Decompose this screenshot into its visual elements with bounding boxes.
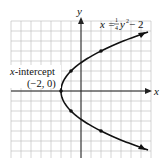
svg-text:x-intercept: x-intercept (9, 66, 55, 77)
data-point (99, 129, 103, 133)
svg-text:− 2: − 2 (129, 18, 143, 30)
x-axis-label: x (153, 85, 159, 97)
data-point (69, 69, 73, 73)
y-axis-label: y (76, 5, 82, 17)
data-point (99, 49, 103, 53)
svg-text:1: 1 (115, 17, 118, 23)
y-axis-arrow-icon (78, 17, 84, 24)
svg-text:x =: x = (99, 18, 115, 30)
parabola-graph: y x x = 1 4 y 2 − 2 x-intercept (−2, 0) (0, 0, 163, 167)
svg-text:y: y (119, 18, 125, 30)
data-point (59, 89, 63, 93)
x-intercept-label: x-intercept (−2, 0) (9, 65, 61, 90)
svg-text:(−2, 0): (−2, 0) (27, 78, 56, 90)
equation-label: x = 1 4 y 2 − 2 (99, 17, 143, 31)
svg-text:4: 4 (115, 25, 118, 31)
data-point (69, 109, 73, 113)
